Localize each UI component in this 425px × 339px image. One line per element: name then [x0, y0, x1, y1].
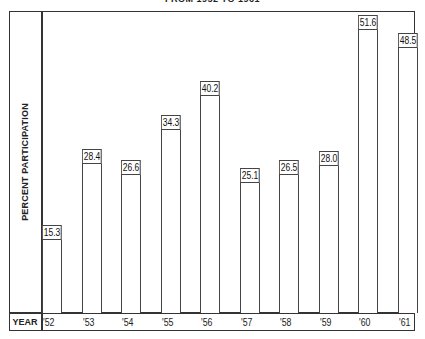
x-tick-label: '56: [201, 313, 212, 331]
x-tick-label: '57: [241, 313, 252, 331]
bar-value-label: 40.2: [200, 81, 220, 96]
bar: 26.5: [279, 160, 299, 313]
bar: 25.1: [240, 168, 260, 313]
bar-value-label: 51.6: [358, 15, 378, 30]
bar: 15.3: [42, 225, 62, 313]
x-tick-label: '60: [359, 313, 370, 331]
bar: 51.6: [358, 15, 378, 313]
bar-value-label: 26.6: [121, 160, 141, 175]
x-tick-label: '53: [83, 313, 94, 331]
bar: 34.3: [161, 115, 181, 313]
bar-value-label: 28.4: [82, 149, 102, 164]
bar-value-label: 28.0: [319, 151, 339, 166]
x-tick-label: '59: [320, 313, 331, 331]
bar-value-label: 15.3: [42, 225, 62, 240]
bar: 28.4: [82, 149, 102, 313]
bar: 26.6: [121, 160, 141, 313]
x-axis-label: YEAR: [9, 313, 41, 331]
bar-value-label: 48.5: [398, 33, 418, 48]
x-tick-label: '61: [399, 313, 410, 331]
x-tick-label: '52: [43, 313, 54, 331]
y-axis-label: PERCENT PARTICIPATION: [20, 103, 30, 221]
bar-value-label: 25.1: [240, 168, 260, 183]
bar-value-label: 34.3: [161, 115, 181, 130]
x-tick-label: '58: [280, 313, 291, 331]
chart-title: FROM 1952 TO 1961: [0, 0, 425, 4]
x-tick-label: '55: [162, 313, 173, 331]
bar: 48.5: [398, 33, 418, 313]
bar: 40.2: [200, 81, 220, 313]
bar: 28.0: [319, 151, 339, 313]
x-tick-label: '54: [122, 313, 133, 331]
bar-value-label: 26.5: [279, 160, 299, 175]
